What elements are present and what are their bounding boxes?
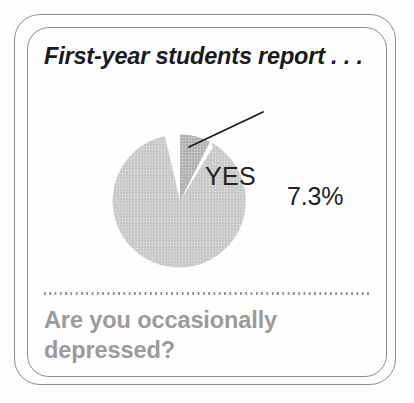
- yes-slice-label: YES: [205, 164, 256, 189]
- pie-chart: YES 7.3%: [30, 78, 384, 283]
- pie-gap-left: [178, 134, 180, 201]
- percent-value-label: 7.3%: [287, 184, 343, 209]
- card-title: First-year students report . . .: [44, 44, 374, 70]
- survey-question: Are you occasionally depressed?: [44, 305, 364, 365]
- survey-result-card: First-year students report . . . YES 7.3: [0, 0, 414, 403]
- dotted-separator: [44, 292, 370, 295]
- leader-line: [189, 112, 263, 147]
